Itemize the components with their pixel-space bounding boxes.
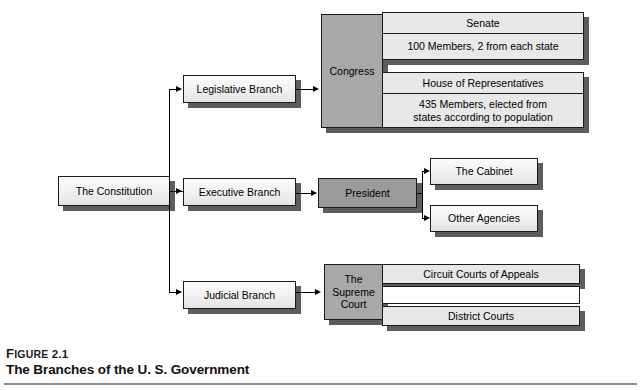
figure-label-initial: F [6,346,14,361]
node-legislative-branch: Legislative Branch [183,75,296,103]
node-executive-branch: Executive Branch [183,178,296,206]
node-judicial-branch: Judicial Branch [183,281,296,309]
node-other-agencies: Other Agencies [430,205,538,232]
spine-vertical [169,89,170,292]
arrow-president [311,190,317,196]
figure-label: FIGURE 2.1 [6,346,249,361]
node-president: President [318,178,417,208]
node-circuit-courts: Circuit Courts of Appeals [382,264,580,284]
arrow-executive [176,188,182,194]
node-house-detail: 435 Members, elected from states accordi… [382,93,584,128]
judicial-middle-band [382,286,580,304]
node-senate-detail: 100 Members, 2 from each state [382,33,584,60]
arrow-congress [313,86,319,92]
arrow-other-agencies [424,215,430,221]
connector-president-vertical [422,171,423,219]
node-senate-title: Senate [382,12,584,34]
figure-number: 2.1 [52,348,69,360]
figure-title: The Branches of the U. S. Government [6,362,249,377]
node-district-courts: District Courts [382,306,580,326]
figure-caption: FIGURE 2.1 The Branches of the U. S. Gov… [6,346,249,377]
figure-label-rest: IGURE [14,348,48,360]
node-supreme-court: The Supreme Court [324,264,383,320]
caption-rule [4,383,637,385]
arrow-judicial [176,289,182,295]
arrow-cabinet [424,168,430,174]
arrow-supreme-court [315,289,321,295]
node-constitution: The Constitution [58,176,170,206]
node-the-cabinet: The Cabinet [430,158,538,185]
node-congress: Congress [321,14,383,128]
figure-canvas: The Constitution Legislative Branch Exec… [0,0,641,390]
arrow-legislative [176,86,182,92]
node-house-title: House of Representatives [382,72,584,94]
